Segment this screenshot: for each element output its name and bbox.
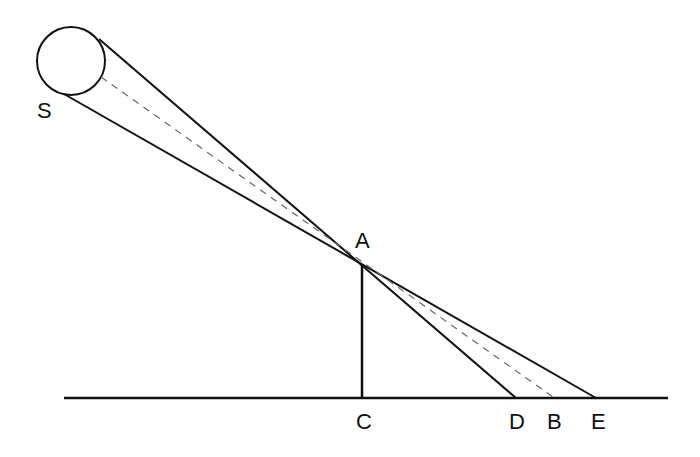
upper-ray-line: [99, 39, 516, 398]
label-sun: S: [37, 98, 52, 123]
label-umbra-end: D: [509, 409, 525, 434]
center-ray-dashed-line: [101, 77, 553, 397]
label-pole-top: A: [355, 228, 370, 253]
lower-ray-line: [64, 94, 596, 398]
shadow-diagram: S A C D B E: [0, 0, 700, 457]
label-penumbra-end: E: [591, 409, 606, 434]
label-center-end: B: [547, 409, 562, 434]
sun-circle: [37, 27, 105, 95]
label-pole-base: C: [356, 409, 372, 434]
